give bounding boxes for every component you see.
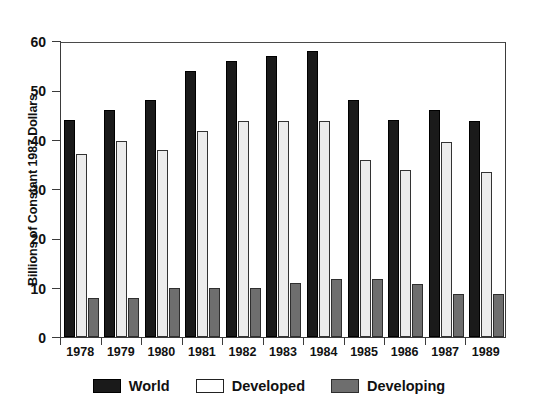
x-axis-tick [425,338,426,345]
bar-developed-1989 [481,172,492,337]
x-axis-tick [222,338,223,345]
bar-developing-1982 [250,288,261,337]
bar-developing-1989 [493,294,504,337]
bar-developing-1983 [290,283,301,337]
bar-world-1986 [388,120,399,337]
bar-developing-1980 [169,288,180,337]
bar-world-1989 [469,121,480,337]
bar-world-1985 [348,100,359,337]
x-axis-tick [101,338,102,345]
bar-group [142,43,183,337]
bar-developed-1987 [441,142,452,337]
x-axis-tick [303,338,304,345]
bar-group [426,43,467,337]
x-axis-tick-label: 1989 [462,345,510,359]
bar-group [466,43,507,337]
bar-group [223,43,264,337]
bar-developing-1987 [453,294,464,337]
bar-world-1979 [104,110,115,337]
bar-developed-1985 [360,160,371,337]
bar-world-1978 [64,120,75,337]
legend-item-developing: Developing [331,378,445,394]
bar-developing-1985 [372,279,383,337]
bar-group [385,43,426,337]
x-axis-tick [344,338,345,345]
bar-world-1982 [226,61,237,337]
bars-container [61,43,505,337]
plot-area [60,42,506,338]
bar-group [61,43,102,337]
legend-item-world: World [93,378,170,394]
bar-group [304,43,345,337]
y-axis-tick-label: 40 [0,133,46,149]
legend-swatch-world-icon [93,379,121,393]
y-axis-tick-label: 0 [0,330,46,346]
legend-item-developed: Developed [196,378,305,394]
x-axis-tick [182,338,183,345]
bar-world-1984 [307,51,318,337]
bar-chart-figure: Billions of Constant 1987 Dollars 010203… [0,0,538,417]
bar-world-1981 [185,71,196,337]
x-axis-tick [141,338,142,345]
bar-developed-1984 [319,121,330,337]
y-axis-tick-label: 60 [0,34,46,50]
y-axis-tick-label: 50 [0,83,46,99]
bar-group [345,43,386,337]
bar-world-1980 [145,100,156,337]
bar-developed-1983 [278,121,289,337]
bar-developed-1981 [197,131,208,337]
x-axis-tick [384,338,385,345]
bar-world-1983 [266,56,277,337]
legend-label: Developed [232,378,305,394]
bar-developing-1984 [331,279,342,337]
chart-legend: WorldDevelopedDeveloping [0,378,538,394]
bar-developed-1978 [76,154,87,337]
bar-group [102,43,143,337]
bar-developing-1978 [88,298,99,337]
bar-developed-1979 [116,141,127,337]
legend-swatch-developed-icon [196,379,224,393]
bar-group [264,43,305,337]
legend-label: World [129,378,170,394]
bar-developed-1980 [157,150,168,337]
legend-label: Developing [367,378,445,394]
bar-group [183,43,224,337]
bar-world-1987 [429,110,440,337]
y-axis-tick-label: 30 [0,182,46,198]
bar-developing-1986 [412,284,423,337]
bar-developed-1982 [238,121,249,337]
bar-developing-1979 [128,298,139,337]
y-axis-tick-label: 10 [0,281,46,297]
x-axis-tick [263,338,264,345]
bar-developed-1986 [400,170,411,337]
y-axis-tick-label: 20 [0,231,46,247]
x-axis-tick [465,338,466,345]
legend-swatch-developing-icon [331,379,359,393]
x-axis-tick [60,338,61,345]
bar-developing-1981 [209,288,220,337]
